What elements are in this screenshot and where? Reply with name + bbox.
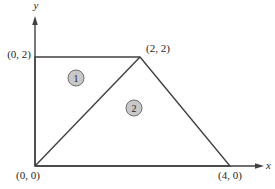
y-axis-arrow-icon xyxy=(32,16,38,25)
x-axis-arrow-icon xyxy=(255,163,264,169)
vertex-label: (0, 2) xyxy=(7,48,31,61)
region-marker-number: 1 xyxy=(74,73,79,84)
x-axis-label: x xyxy=(265,159,271,171)
region-marker-number: 2 xyxy=(132,103,137,114)
math-figure: xy(0, 2)(2, 2)(0, 0)(4, 0)12 xyxy=(0,0,275,189)
y-axis-label: y xyxy=(33,0,39,11)
coordinate-plane-figure: xy(0, 2)(2, 2)(0, 0)(4, 0)12 xyxy=(0,0,275,189)
vertex-label: (0, 0) xyxy=(16,169,40,182)
diagonal-divider xyxy=(35,57,140,166)
vertex-label: (2, 2) xyxy=(146,42,170,55)
vertex-label: (4, 0) xyxy=(218,169,242,182)
